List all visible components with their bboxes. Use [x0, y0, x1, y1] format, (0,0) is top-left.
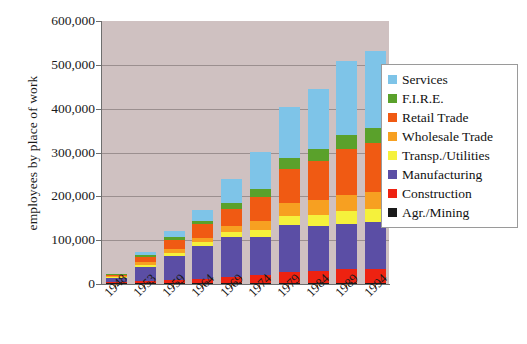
legend-label: Services: [402, 73, 448, 87]
legend-label: Construction: [402, 187, 472, 201]
bar-segment[interactable]: [250, 152, 271, 189]
bar-stack[interactable]: [308, 89, 329, 284]
legend-item-wholesale-trade[interactable]: Wholesale Trade: [386, 127, 513, 146]
plot-area: [101, 21, 389, 284]
y-axis-tick-label: 200,000: [8, 188, 100, 204]
bar-segment[interactable]: [336, 135, 357, 150]
bar-segment[interactable]: [250, 189, 271, 196]
bar-stack[interactable]: [279, 107, 300, 284]
legend-swatch-icon: [388, 94, 397, 103]
y-axis-tick-label: 600,000: [8, 13, 100, 29]
bar-segment[interactable]: [250, 230, 271, 237]
legend-label: F.I.R.E.: [402, 92, 444, 106]
bar-segment[interactable]: [308, 161, 329, 200]
legend-item-agr-mining[interactable]: Agr./Mining: [386, 203, 513, 222]
y-axis-tick-label: 100,000: [8, 232, 100, 248]
legend-swatch-icon: [388, 151, 397, 160]
bar-stack[interactable]: [250, 152, 271, 284]
legend-item-services[interactable]: Services: [386, 70, 513, 89]
bar-segment[interactable]: [308, 226, 329, 272]
bar-segment[interactable]: [308, 215, 329, 226]
bar-segment[interactable]: [221, 209, 242, 227]
bar-segment[interactable]: [279, 216, 300, 225]
legend: ServicesF.I.R.E.Retail TradeWholesale Tr…: [381, 64, 518, 228]
bar-segment[interactable]: [308, 89, 329, 149]
legend-label: Transp./Utilities: [402, 149, 490, 163]
bar-segment[interactable]: [250, 221, 271, 230]
y-axis-tick-label: 300,000: [8, 145, 100, 161]
bar-stack[interactable]: [221, 179, 242, 284]
bar-segment[interactable]: [164, 240, 185, 249]
legend-swatch-icon: [388, 75, 397, 84]
legend-item-transp-utilities[interactable]: Transp./Utilities: [386, 146, 513, 165]
bar-segment[interactable]: [336, 195, 357, 212]
bar-segment[interactable]: [221, 179, 242, 204]
bar-segment[interactable]: [308, 200, 329, 215]
y-axis-tick-label: 400,000: [8, 101, 100, 117]
bar-segment[interactable]: [250, 237, 271, 274]
legend-swatch-icon: [388, 170, 397, 179]
bar-segment[interactable]: [279, 158, 300, 169]
bar-segment[interactable]: [221, 237, 242, 277]
bar-segment[interactable]: [192, 224, 213, 237]
bar-segment[interactable]: [279, 225, 300, 272]
bar-segment[interactable]: [308, 149, 329, 162]
bar-segment[interactable]: [365, 222, 386, 269]
legend-label: Wholesale Trade: [402, 130, 493, 144]
legend-item-manufacturing[interactable]: Manufacturing: [386, 165, 513, 184]
legend-swatch-icon: [388, 113, 397, 122]
y-axis-tick-label: 500,000: [8, 57, 100, 73]
bar-segment[interactable]: [279, 169, 300, 203]
legend-item-construction[interactable]: Construction: [386, 184, 513, 203]
legend-swatch-icon: [388, 189, 397, 198]
legend-label: Manufacturing: [402, 168, 482, 182]
bar-stack[interactable]: [336, 61, 357, 284]
bar-segment[interactable]: [250, 197, 271, 222]
bar-segment[interactable]: [192, 210, 213, 221]
bar-segment[interactable]: [336, 61, 357, 134]
bar-segment[interactable]: [336, 211, 357, 223]
bars-layer: [102, 21, 389, 284]
legend-label: Agr./Mining: [402, 206, 469, 220]
bar-segment[interactable]: [336, 149, 357, 194]
stacked-bar-chart: employees by place of work 0100,000200,0…: [0, 0, 527, 344]
bar-segment[interactable]: [279, 203, 300, 216]
legend-item-f-i-r-e[interactable]: F.I.R.E.: [386, 89, 513, 108]
legend-swatch-icon: [388, 132, 397, 141]
bar-segment[interactable]: [279, 107, 300, 158]
y-axis-tick-label: 0: [8, 276, 100, 292]
legend-label: Retail Trade: [402, 111, 468, 125]
bar-segment[interactable]: [336, 224, 357, 270]
y-axis-tick-labels: 0100,000200,000300,000400,000500,000600,…: [0, 0, 100, 344]
legend-swatch-icon: [388, 208, 397, 217]
legend-item-retail-trade[interactable]: Retail Trade: [386, 108, 513, 127]
